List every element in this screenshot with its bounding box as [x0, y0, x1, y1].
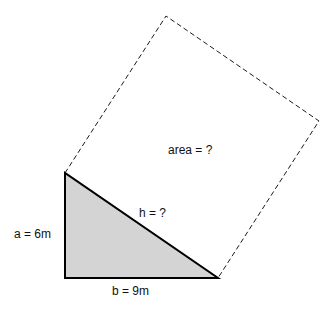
hypotenuse-label: h = ? — [139, 206, 166, 220]
side-a-label: a = 6m — [14, 227, 51, 241]
area-label: area = ? — [168, 143, 212, 157]
diagram-canvas — [0, 0, 324, 310]
side-b-label: b = 9m — [112, 284, 149, 298]
right-triangle — [65, 173, 218, 278]
